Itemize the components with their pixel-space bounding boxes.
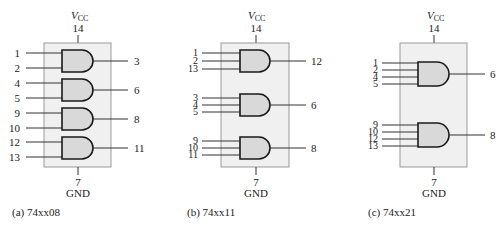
and-gate-icon bbox=[418, 62, 449, 86]
pin-label: 5 bbox=[193, 106, 198, 117]
pin-label: 6 bbox=[134, 84, 140, 96]
and-gate-icon bbox=[62, 108, 93, 130]
gnd-label: GND bbox=[244, 187, 268, 199]
pin-label: 11 bbox=[188, 149, 198, 160]
pin-label: 11 bbox=[134, 142, 145, 154]
pin-label: 13 bbox=[188, 63, 198, 74]
vcc-pin-number: 14 bbox=[73, 22, 85, 34]
pin-label: 1 bbox=[15, 47, 21, 59]
and-gate-icon bbox=[62, 50, 93, 72]
vcc-pin-number: 14 bbox=[251, 22, 263, 34]
and-gate-2: 9 10 12 13 8 bbox=[368, 119, 496, 151]
and-gate-icon bbox=[62, 137, 93, 159]
pin-label: 2 bbox=[15, 62, 21, 74]
pin-label: 13 bbox=[9, 151, 21, 163]
pin-label: 12 bbox=[311, 55, 322, 67]
and-gate-2: 3 4 5 6 bbox=[193, 92, 317, 117]
pin-label: 3 bbox=[134, 55, 140, 67]
and-gate-2: 4 5 6 bbox=[15, 77, 141, 104]
pin-label: 5 bbox=[373, 78, 378, 89]
logic-gate-diagrams: VCC 14 7 GND 1 2 3 4 5 6 bbox=[0, 0, 502, 232]
pin-label: 12 bbox=[9, 136, 20, 148]
and-gate-icon bbox=[418, 123, 449, 147]
pin-label: 5 bbox=[15, 92, 21, 104]
pin-label: 8 bbox=[490, 129, 496, 141]
gnd-label: GND bbox=[66, 187, 90, 199]
figure-caption: (a) 74xx08 bbox=[12, 206, 60, 219]
figure-caption: (b) 74xx11 bbox=[187, 206, 235, 219]
chip-74xx08: VCC 14 7 GND 1 2 3 4 5 6 bbox=[9, 9, 145, 219]
pin-label: 10 bbox=[9, 122, 21, 134]
and-gate-3: 9 10 8 bbox=[9, 107, 140, 134]
chip-74xx11: VCC 14 7 GND 1 2 13 12 3 4 5 bbox=[187, 9, 322, 219]
pin-label: 8 bbox=[311, 142, 317, 154]
pin-label: 4 bbox=[15, 77, 21, 89]
and-gate-4: 12 13 11 bbox=[9, 136, 145, 163]
pin-label: 6 bbox=[490, 68, 496, 80]
gnd-label: GND bbox=[422, 187, 446, 199]
chip-74xx21: VCC 14 7 GND 1 2 4 5 6 9 bbox=[368, 9, 496, 219]
vcc-pin-number: 14 bbox=[429, 22, 441, 34]
and-gate-1: 1 2 4 5 6 bbox=[373, 57, 496, 89]
vcc-label: VCC bbox=[248, 9, 265, 23]
pin-label: 8 bbox=[134, 113, 140, 125]
and-gate-icon bbox=[240, 137, 270, 159]
pin-label: 6 bbox=[311, 99, 317, 111]
and-gate-icon bbox=[240, 50, 270, 72]
and-gate-icon bbox=[62, 79, 93, 101]
and-gate-3: 9 10 11 8 bbox=[188, 135, 317, 160]
vcc-label: VCC bbox=[71, 9, 88, 23]
pin-label: 9 bbox=[15, 107, 21, 119]
figure-caption: (c) 74xx21 bbox=[368, 206, 416, 219]
pin-label: 13 bbox=[368, 140, 378, 151]
and-gate-1: 1 2 3 bbox=[15, 47, 141, 74]
and-gate-1: 1 2 13 12 bbox=[188, 47, 322, 74]
vcc-label: VCC bbox=[427, 9, 444, 23]
and-gate-icon bbox=[240, 94, 270, 116]
